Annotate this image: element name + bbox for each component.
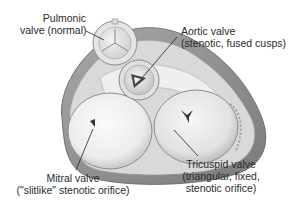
tricuspid-label: Tricuspid valve (triangular, fixed, sten… <box>165 158 277 194</box>
aortic-label: Aortic valve (stenotic, fused cusps) <box>181 25 286 49</box>
pulmonic-label: Pulmonic valve (normal) <box>20 12 86 36</box>
aortic-label-line2: (stenotic, fused cusps) <box>181 37 286 49</box>
pulmonic-tab <box>112 19 118 24</box>
mitral-label-line2: ("slitlike" stenotic orifice) <box>8 184 138 196</box>
pulmonic-label-line2: valve (normal) <box>20 24 86 36</box>
tricuspid-valve <box>154 90 238 164</box>
mitral-label-line1: Mitral valve <box>8 172 138 184</box>
tricuspid-label-line2: (triangular, fixed, <box>165 170 277 182</box>
tricuspid-label-line3: stenotic orifice) <box>165 182 277 194</box>
mitral-valve <box>68 93 152 169</box>
tricuspid-label-line1: Tricuspid valve <box>165 158 277 170</box>
pulmonic-label-line1: Pulmonic <box>20 12 86 24</box>
aortic-label-line1: Aortic valve <box>181 25 286 37</box>
mitral-label: Mitral valve ("slitlike" stenotic orific… <box>8 172 138 196</box>
